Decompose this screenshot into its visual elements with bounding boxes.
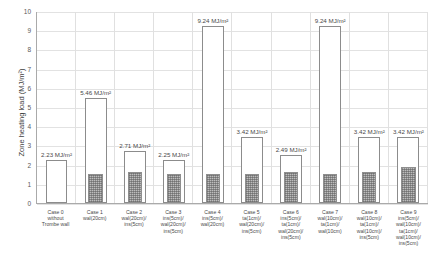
- y-tick-label: 2: [27, 162, 31, 169]
- bar-outline[interactable]: [241, 137, 263, 203]
- x-category-label-line: wal(20cm): [194, 221, 231, 227]
- bar-hatched[interactable]: [245, 174, 259, 203]
- bar-outline[interactable]: [124, 151, 146, 203]
- y-tick-label: 6: [27, 86, 31, 93]
- x-category-label: Case 8wal(10cm)/ta(1cm)/wal(10cm)/ins(5c…: [350, 206, 389, 258]
- x-category-label-line: wal(10cm): [311, 228, 348, 234]
- bar-value-label: 3.42 MJ/m²: [354, 128, 385, 135]
- bar-slot[interactable]: 2.25 MJ/m²: [154, 12, 193, 203]
- x-category-label: Case 5ta(1cm)/wal(20cm)/ins(5cm): [232, 206, 271, 258]
- y-tick-label: 0: [27, 201, 31, 208]
- bar-group: 2.23 MJ/m²5.46 MJ/m²2.71 MJ/m²2.25 MJ/m²…: [37, 12, 428, 203]
- bar-hatched[interactable]: [128, 172, 142, 203]
- bar-value-label: 2.23 MJ/m²: [41, 151, 72, 158]
- y-tick-label: 1: [27, 182, 31, 189]
- x-category-label-line: wal(20cm): [76, 215, 113, 221]
- x-category-label: Case 2wal(20cm)/ins(5cm): [114, 206, 153, 258]
- y-tick-label: 8: [27, 47, 31, 54]
- x-category-label-line: Trombe wall: [37, 221, 74, 227]
- x-category-label: Case 1wal(20cm): [75, 206, 114, 258]
- y-tick-label: 10: [24, 9, 31, 16]
- bar-outline[interactable]: [397, 137, 419, 203]
- bar-value-label: 3.42 MJ/m²: [393, 128, 424, 135]
- bar-slot[interactable]: 2.23 MJ/m²: [37, 12, 76, 203]
- y-tick-label: 9: [27, 28, 31, 35]
- bar-outline[interactable]: [319, 26, 341, 203]
- y-tick-label: 5: [27, 105, 31, 112]
- bar-outline[interactable]: [46, 160, 68, 203]
- bar-hatched[interactable]: [323, 174, 337, 203]
- bar-value-label: 2.25 MJ/m²: [158, 151, 189, 158]
- bar-hatched[interactable]: [206, 174, 220, 203]
- x-category-label: Case 9ins(5cm)/wal(10cm)/ta(1cm)/wal(10c…: [389, 206, 428, 258]
- x-category-label-line: ins(5cm): [155, 228, 192, 234]
- bar-slot[interactable]: 2.49 MJ/m²: [272, 12, 311, 203]
- x-axis-category-labels: Case 0withoutTrombe wallCase 1wal(20cm)C…: [36, 206, 428, 258]
- bar-hatched[interactable]: [284, 172, 298, 203]
- y-axis-tick-labels: 012345678910: [0, 12, 34, 204]
- x-category-label-line: ins(5cm): [272, 234, 309, 240]
- bar-value-label: 9.24 MJ/m²: [315, 17, 346, 24]
- bar-value-label: 2.49 MJ/m²: [276, 146, 307, 153]
- x-category-label: Case 0withoutTrombe wall: [36, 206, 75, 258]
- bar-hatched[interactable]: [401, 167, 415, 203]
- bar-hatched[interactable]: [88, 174, 102, 203]
- bar-outline[interactable]: [163, 160, 185, 203]
- y-tick-label: 3: [27, 143, 31, 150]
- gridline: [37, 204, 428, 205]
- x-category-label-line: ins(5cm): [390, 240, 427, 246]
- bar-hatched[interactable]: [362, 172, 376, 203]
- x-category-label: Case 6ins(5cm)/ta(1cm)/wal(20cm)/ins(5cm…: [271, 206, 310, 258]
- bar-slot[interactable]: 3.42 MJ/m²: [389, 12, 428, 203]
- bar-outline[interactable]: [202, 26, 224, 203]
- bar-outline[interactable]: [280, 155, 302, 203]
- bar-slot[interactable]: 9.24 MJ/m²: [311, 12, 350, 203]
- bar-slot[interactable]: 5.46 MJ/m²: [76, 12, 115, 203]
- bar-slot[interactable]: 9.24 MJ/m²: [193, 12, 232, 203]
- bar-slot[interactable]: 2.71 MJ/m²: [115, 12, 154, 203]
- bar-value-label: 2.71 MJ/m²: [119, 142, 150, 149]
- x-category-label: Case 7wal(10cm)/ta(1cm)/wal(10cm): [310, 206, 349, 258]
- chart-container: Zone heating load (MJ/m²) 012345678910 2…: [0, 0, 438, 262]
- bar-value-label: 5.46 MJ/m²: [80, 89, 111, 96]
- x-category-label-line: ins(5cm): [233, 228, 270, 234]
- bar-value-label: 3.42 MJ/m²: [237, 128, 268, 135]
- x-category-label: Case 3ins(5cm)/wal(20cm)/ins(5cm): [154, 206, 193, 258]
- bar-slot[interactable]: 3.42 MJ/m²: [232, 12, 271, 203]
- bar-slot[interactable]: 3.42 MJ/m²: [350, 12, 389, 203]
- x-category-label: Case 4ins(5cm)/wal(20cm): [193, 206, 232, 258]
- bar-value-label: 9.24 MJ/m²: [197, 17, 228, 24]
- category-separator: [427, 12, 428, 203]
- bar-outline[interactable]: [85, 98, 107, 203]
- x-category-label-line: ins(5cm): [351, 234, 388, 240]
- y-tick-label: 4: [27, 124, 31, 131]
- y-tick-label: 7: [27, 66, 31, 73]
- plot-area: 2.23 MJ/m²5.46 MJ/m²2.71 MJ/m²2.25 MJ/m²…: [36, 12, 428, 204]
- x-category-label-line: ins(5cm): [115, 221, 152, 227]
- bar-outline[interactable]: [358, 137, 380, 203]
- bar-hatched[interactable]: [167, 174, 181, 203]
